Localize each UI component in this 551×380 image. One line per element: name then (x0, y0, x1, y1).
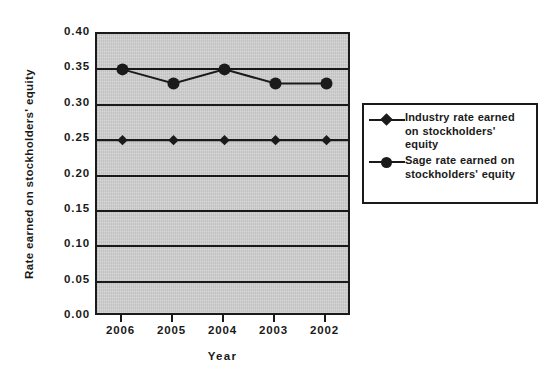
data-point-circle (270, 78, 282, 90)
legend-label: Industry rate earned on stockholders' eq… (405, 111, 531, 152)
x-axis-tick-mark (171, 315, 173, 322)
line-chart-figure: Rate earned on stockholders' equity 0.40… (0, 0, 551, 380)
legend-entry[interactable]: Sage rate earned on stockholders' equity (369, 154, 531, 181)
x-axis-tick-label: 2002 (297, 325, 353, 337)
data-point-diamond (219, 135, 229, 145)
y-axis-title: Rate earned on stockholders' equity (18, 32, 40, 316)
x-axis-tick-label: 2003 (246, 325, 302, 337)
series-sage (117, 63, 333, 89)
data-point-circle (321, 78, 333, 90)
y-axis-tick-label: 0.40 (42, 26, 90, 38)
y-axis-tick-label: 0.15 (42, 203, 90, 215)
x-axis-tick-mark (120, 315, 122, 322)
legend-diamond-icon (369, 112, 405, 127)
y-axis-tick-label: 0.05 (42, 274, 90, 286)
x-axis-tick-mark (222, 315, 224, 322)
y-axis-tick-label: 0.25 (42, 132, 90, 144)
data-series-layer (97, 34, 348, 313)
data-point-circle (219, 63, 231, 75)
x-axis-title: Year (95, 350, 350, 362)
series-industry (97, 135, 350, 145)
data-point-diamond (117, 135, 127, 145)
data-point-circle (168, 78, 180, 90)
chart-legend: Industry rate earned on stockholders' eq… (362, 103, 538, 204)
legend-marker-circle (381, 157, 392, 168)
y-axis-tick-label: 0.30 (42, 97, 90, 109)
legend-label: Sage rate earned on stockholders' equity (405, 154, 531, 181)
legend-entry[interactable]: Industry rate earned on stockholders' eq… (369, 111, 531, 152)
y-axis-tick-labels: 0.400.350.300.250.200.150.100.050.00 (40, 0, 90, 380)
legend-circle-icon (369, 155, 405, 170)
y-axis-tick-label: 0.10 (42, 239, 90, 251)
data-point-diamond (321, 135, 331, 145)
series-svg (97, 34, 350, 315)
data-point-diamond (270, 135, 280, 145)
y-axis-tick-label: 0.20 (42, 168, 90, 180)
y-axis-tick-label: 0.35 (42, 62, 90, 74)
x-axis-tick-mark (273, 315, 275, 322)
x-axis-tick-label: 2004 (195, 325, 251, 337)
x-axis-tick-label: 2006 (93, 325, 149, 337)
data-point-diamond (168, 135, 178, 145)
plot-area (95, 32, 350, 315)
x-axis-tick-mark (324, 315, 326, 322)
data-point-circle (117, 63, 129, 75)
y-axis-tick-label: 0.00 (42, 309, 90, 321)
x-axis-tick-label: 2005 (144, 325, 200, 337)
legend-marker-diamond (380, 113, 393, 126)
